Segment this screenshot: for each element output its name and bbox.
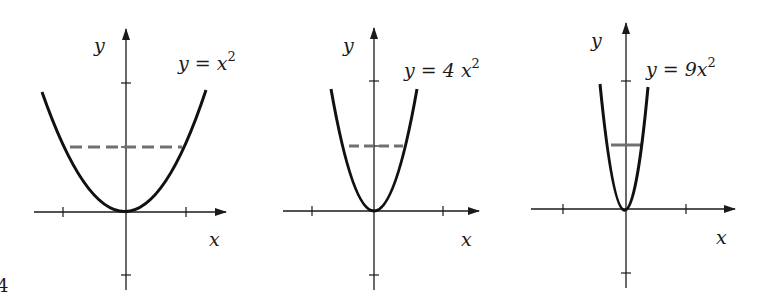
x-axis-label: x	[716, 226, 727, 248]
equation-label: y = 4 x2	[403, 56, 480, 81]
parabola-curve	[600, 84, 648, 210]
ticks	[563, 81, 686, 273]
equation-label: y = 9x2	[645, 55, 716, 80]
x-axis-label: x	[461, 228, 472, 250]
ticks	[312, 81, 443, 275]
panel-2: y x y = 4 x2	[283, 28, 480, 290]
panel-1: y x y = x2	[34, 29, 236, 290]
panel-3: y x y = 9x2	[531, 23, 735, 288]
figure-canvas: y x y = x2 y x y = 4 x2	[0, 0, 768, 300]
y-axis-label: y	[93, 34, 105, 56]
x-axis-label: x	[209, 228, 220, 250]
y-axis-label: y	[342, 34, 354, 56]
figure-number: 4	[0, 275, 8, 296]
parabola-curve	[42, 90, 206, 212]
equation-label: y = x2	[177, 49, 236, 74]
y-axis-label: y	[590, 29, 602, 51]
